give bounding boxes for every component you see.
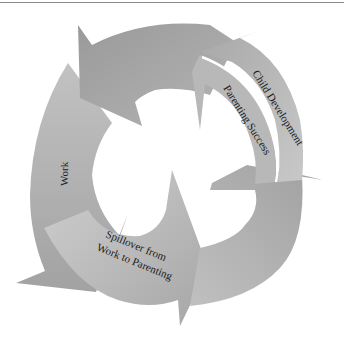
label-work: Work: [58, 161, 70, 186]
arrow-segment-lower-right: [190, 165, 323, 306]
cycle-diagram: Child Development Parenting Success Work…: [0, 0, 344, 338]
